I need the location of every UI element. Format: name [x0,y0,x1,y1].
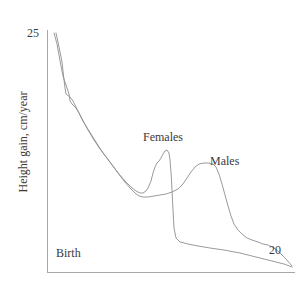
x-axis-tick-label-birth: Birth [56,247,81,259]
series-label-females: Females [143,131,183,143]
curve-females [54,33,292,267]
curve-males [56,33,292,266]
growth-velocity-chart: 25 Birth 20 Females Males Height gain, c… [0,0,304,284]
y-axis-title: Height gain, cm/year [17,82,29,202]
y-axis-tick-label-25: 25 [27,27,39,39]
series-label-males: Males [210,155,239,167]
x-axis-tick-label-20: 20 [269,244,281,256]
